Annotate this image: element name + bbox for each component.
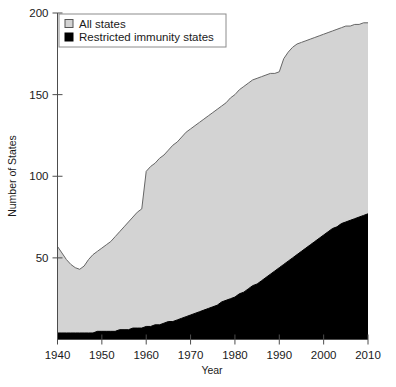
y-tick-label: 50 — [36, 252, 49, 264]
y-tick-label: 200 — [29, 7, 48, 19]
x-tick-label: 1980 — [222, 349, 248, 361]
y-tick-label: 150 — [29, 89, 48, 101]
x-tick-label: 1970 — [178, 349, 204, 361]
chart-canvas: 5010015020019401950196019701980199020002… — [0, 0, 396, 387]
legend-label-all-states: All states — [79, 18, 126, 30]
x-tick-label: 1950 — [89, 349, 115, 361]
legend-label-restricted-immunity-states: Restricted immunity states — [79, 31, 214, 43]
x-axis-title: Year — [201, 364, 223, 376]
y-axis-title: Number of States — [6, 135, 18, 217]
y-tick-label: 100 — [29, 170, 48, 182]
x-tick-label: 1990 — [266, 349, 292, 361]
x-tick-label: 1940 — [45, 349, 71, 361]
x-tick-label: 1960 — [133, 349, 159, 361]
x-tick-label: 2010 — [355, 349, 381, 361]
legend: All states Restricted immunity states — [59, 14, 226, 47]
area-chart: 5010015020019401950196019701980199020002… — [0, 0, 396, 387]
legend-swatch-all-states — [65, 20, 73, 28]
x-tick-label: 2000 — [311, 349, 337, 361]
legend-swatch-restricted-immunity-states — [65, 33, 73, 41]
